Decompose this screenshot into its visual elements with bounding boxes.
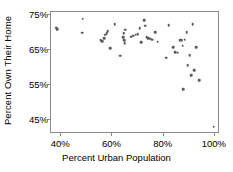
data-point (151, 38, 154, 41)
x-tick-mark (214, 133, 215, 136)
x-tick-mark (163, 133, 164, 136)
data-point (182, 88, 185, 91)
data-point (81, 31, 84, 34)
data-point (124, 29, 127, 32)
y-axis-tick-label: 65% (29, 44, 48, 55)
data-point (56, 28, 59, 31)
data-point (113, 23, 116, 26)
data-point (189, 54, 192, 57)
x-axis-title: Percent Urban Population (0, 152, 233, 163)
data-point (138, 27, 141, 30)
data-point (185, 31, 188, 34)
scatter-chart-figure: Percent Own Their Home 45%55%65%75% 40%6… (0, 0, 233, 172)
data-point (107, 30, 110, 33)
data-point (81, 17, 84, 20)
y-axis-tick-label: 55% (29, 79, 48, 90)
y-tick-mark (47, 14, 50, 15)
data-point (144, 24, 147, 27)
data-point (186, 64, 189, 67)
data-point (168, 24, 171, 27)
y-axis-tick-label: 45% (29, 114, 48, 125)
data-point (183, 38, 186, 41)
y-tick-mark (47, 119, 50, 120)
data-point (119, 54, 122, 57)
data-point (103, 37, 106, 40)
data-point (136, 33, 139, 36)
y-axis-title-text: Percent Own Their Home (3, 15, 14, 124)
data-point (156, 40, 159, 43)
data-point (193, 69, 196, 72)
data-point (176, 52, 179, 55)
y-axis-tick-labels: 45%55%65%75% (14, 0, 48, 140)
data-point (122, 32, 125, 35)
data-point (140, 41, 143, 44)
x-tick-mark (111, 133, 112, 136)
data-point (165, 56, 168, 59)
data-point (154, 31, 157, 34)
y-axis-tick-label: 75% (29, 9, 48, 20)
data-point (101, 40, 104, 43)
data-point (109, 47, 112, 50)
x-axis-tick-label: 80% (153, 138, 172, 149)
data-point (143, 19, 146, 22)
x-tick-mark (60, 133, 61, 136)
data-point (198, 79, 201, 82)
x-axis-tick-label: 40% (51, 138, 70, 149)
data-point (172, 46, 175, 49)
x-axis-tick-label: 60% (102, 138, 121, 149)
y-tick-mark (47, 84, 50, 85)
plot-area (50, 11, 219, 133)
data-point (213, 125, 216, 128)
data-point (190, 74, 193, 77)
data-point (195, 46, 198, 49)
x-axis-tick-label: 100% (202, 138, 226, 149)
data-point (181, 45, 184, 48)
data-point (123, 42, 126, 45)
y-tick-mark (47, 49, 50, 50)
data-point (192, 23, 195, 26)
